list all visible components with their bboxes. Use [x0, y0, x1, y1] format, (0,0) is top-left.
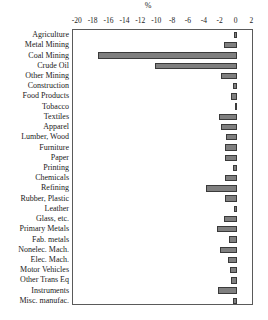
- x-tick-label: -6: [185, 15, 191, 26]
- bar: [233, 165, 237, 171]
- bar: [225, 144, 236, 150]
- bar: [224, 42, 237, 48]
- y-category-label: Agriculture: [0, 30, 69, 39]
- bar: [221, 73, 236, 79]
- x-tick-label: -20: [72, 15, 82, 26]
- bar: [231, 277, 237, 283]
- y-category-label: Textiles: [0, 111, 69, 120]
- bar: [206, 185, 236, 191]
- y-category-label: Printing: [0, 163, 69, 172]
- y-category-label: Rubber, Plastic: [0, 193, 69, 202]
- bar: [233, 298, 236, 304]
- bar: [235, 103, 237, 109]
- y-category-label: Refining: [0, 183, 69, 192]
- bar: [231, 93, 237, 99]
- x-tick-label: -8: [169, 15, 175, 26]
- bar: [225, 175, 237, 181]
- axis-unit-text: %: [145, 1, 152, 10]
- y-category-label: Metal Mining: [0, 40, 69, 49]
- bar: [225, 195, 236, 201]
- bar: [224, 216, 237, 222]
- bar: [217, 226, 236, 232]
- y-category-label: Paper: [0, 152, 69, 161]
- y-category-label: Glass, etc.: [0, 214, 69, 223]
- bar: [233, 83, 237, 89]
- y-category-label: Coal Mining: [0, 50, 69, 59]
- bar: [225, 155, 237, 161]
- y-category-label: Furniture: [0, 142, 69, 151]
- x-tick-label: 2: [250, 15, 254, 26]
- axis-unit-label: %: [0, 1, 268, 10]
- y-category-label: Misc. manufac.: [0, 295, 69, 304]
- bar: [234, 206, 236, 212]
- bars-container: [73, 30, 252, 304]
- x-tick-label: -14: [119, 15, 129, 26]
- x-axis-tick-labels: -20-18-16-14-12-10-8-6-4-202: [72, 15, 253, 26]
- bar: [234, 32, 236, 38]
- y-category-label: Construction: [0, 81, 69, 90]
- y-category-label: Motor Vehicles: [0, 265, 69, 274]
- y-category-label: Primary Metals: [0, 224, 69, 233]
- x-tick-label: -12: [135, 15, 145, 26]
- y-category-label: Other Trans Eq: [0, 275, 69, 284]
- y-category-label: Fab. metals: [0, 234, 69, 243]
- y-category-label: Lumber, Wood: [0, 132, 69, 141]
- y-category-label: Nonelec. Mach.: [0, 244, 69, 253]
- bar-chart: % -20-18-16-14-12-10-8-6-4-202 Agricultu…: [0, 0, 268, 320]
- bar: [230, 267, 236, 273]
- y-category-label: Chemicals: [0, 173, 69, 182]
- bar: [98, 52, 237, 58]
- y-category-label: Other Mining: [0, 71, 69, 80]
- x-tick-label: -10: [151, 15, 161, 26]
- bar: [220, 247, 237, 253]
- x-tick-label: -16: [104, 15, 114, 26]
- bar: [218, 287, 236, 293]
- x-tick-label: -4: [201, 15, 207, 26]
- y-category-label: Food Products: [0, 91, 69, 100]
- bar: [155, 63, 237, 69]
- x-tick-label: -18: [88, 15, 98, 26]
- y-category-label: Elec. Mach.: [0, 255, 69, 264]
- y-category-label: Apparel: [0, 122, 69, 131]
- y-axis-category-labels: AgricultureMetal MiningCoal MiningCrude …: [0, 29, 69, 305]
- y-category-label: Crude Oil: [0, 60, 69, 69]
- bar: [229, 236, 236, 242]
- y-category-label: Leather: [0, 203, 69, 212]
- x-tick-label: -2: [217, 15, 223, 26]
- bar: [228, 257, 237, 263]
- plot-area: [72, 29, 253, 305]
- y-category-label: Tobacco: [0, 101, 69, 110]
- bar: [221, 124, 237, 130]
- bar: [226, 134, 236, 140]
- x-tick-label: 0: [234, 15, 238, 26]
- bar: [219, 114, 236, 120]
- y-category-label: Instruments: [0, 285, 69, 294]
